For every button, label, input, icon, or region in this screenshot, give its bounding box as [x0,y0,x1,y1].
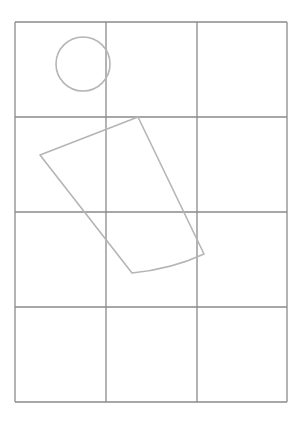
tilted-quadrilateral [40,117,204,273]
sketch-canvas [0,0,304,423]
shapes [40,37,204,273]
circle [56,37,110,91]
grid [15,22,287,402]
